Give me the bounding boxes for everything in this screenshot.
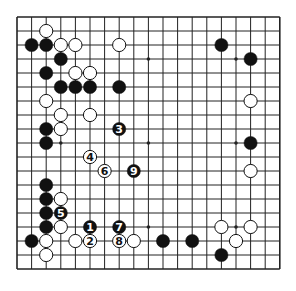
white-stone [113,38,126,51]
white-stone [40,94,53,107]
black-stone [25,234,38,247]
move-number-label: 7 [115,221,123,234]
move-5-stone: 5 [54,206,67,220]
black-stone [54,52,67,65]
move-number-label: 8 [115,235,123,248]
move-number-label: 5 [57,207,65,220]
star-point [234,225,238,229]
star-point [234,141,238,145]
white-stone [40,248,53,261]
move-8-stone: 8 [113,234,126,248]
black-stone [113,80,126,93]
white-stone [54,192,67,205]
black-stone [215,248,228,261]
white-stone [244,94,257,107]
black-stone [40,192,53,205]
star-point [59,141,63,145]
black-stone [244,52,257,65]
star-point [234,57,238,61]
move-number-label: 4 [86,151,94,164]
black-stone [40,220,53,233]
move-4-stone: 4 [83,150,96,164]
go-board[interactable]: 123456789 [0,0,296,291]
white-stone [83,66,96,79]
black-stone [244,136,257,149]
white-stone [69,66,82,79]
black-stone [215,38,228,51]
move-number-label: 3 [115,123,123,136]
white-stone [69,234,82,247]
move-7-stone: 7 [113,220,126,234]
move-number-label: 1 [86,221,94,234]
black-stone [40,178,53,191]
white-stone [215,220,228,233]
white-stone [244,220,257,233]
black-stone [25,38,38,51]
white-stone [69,38,82,51]
move-1-stone: 1 [83,220,96,234]
white-stone [54,122,67,135]
move-number-label: 9 [130,165,138,178]
white-stone [40,234,53,247]
black-stone [83,80,96,93]
white-stone [54,220,67,233]
black-stone [40,122,53,135]
black-stone [40,66,53,79]
move-2-stone: 2 [83,234,96,248]
black-stone [40,38,53,51]
white-stone [83,108,96,121]
move-9-stone: 9 [127,164,140,178]
white-stone [54,38,67,51]
white-stone [54,108,67,121]
black-stone [186,234,199,247]
white-stone [244,164,257,177]
black-stone [54,80,67,93]
star-point [147,57,151,61]
white-stone [229,234,242,247]
white-stone [127,234,140,247]
black-stone [40,206,53,219]
black-stone [40,136,53,149]
star-point [147,141,151,145]
move-number-label: 2 [86,235,94,248]
star-point [147,225,151,229]
black-stone [156,234,169,247]
move-3-stone: 3 [113,122,126,136]
black-stone [69,80,82,93]
move-number-label: 6 [101,165,109,178]
white-stone [40,24,53,37]
move-6-stone: 6 [98,164,111,178]
